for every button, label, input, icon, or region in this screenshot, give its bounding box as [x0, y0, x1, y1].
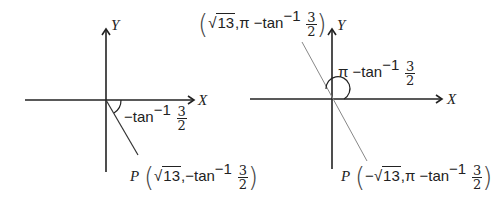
right-top-point-label: (√13,π −tan−1 32): [198, 8, 327, 38]
left-angle-label: −tan−1 32: [124, 102, 187, 132]
right-y-axis-label: Y: [337, 18, 345, 33]
right-diagram: [250, 29, 442, 169]
right-x-axis-label: X: [447, 92, 456, 107]
left-angle-arc: [114, 100, 121, 113]
right-angle-label: π −tan−1 32: [338, 57, 415, 87]
left-point-label: P (√13,−tan−1 32): [130, 161, 258, 191]
right-point-label: P (−√13,π −tan−1 32): [341, 161, 492, 191]
left-y-axis-label: Y: [111, 18, 119, 33]
left-x-axis-label: X: [198, 93, 207, 108]
